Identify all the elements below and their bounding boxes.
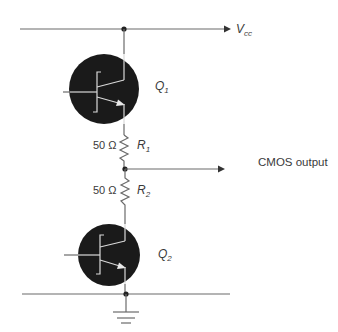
resistor-r1 (120, 135, 128, 169)
q2-label: Q2 (158, 247, 172, 263)
r1-value: 50 Ω (93, 139, 117, 151)
transistor-q2 (64, 224, 140, 294)
transistor-q1-body (69, 54, 139, 124)
r2-label: R2 (137, 183, 151, 199)
q1-label: Q1 (155, 79, 169, 95)
resistor-r2 (121, 169, 129, 224)
ground-icon (113, 312, 139, 323)
circuit-diagram: Vcc Q1 50 Ω R1 CMOS output 50 Ω R2 (0, 0, 338, 332)
vcc-label: Vcc (236, 22, 252, 38)
r2-value: 50 Ω (93, 184, 117, 196)
transistor-q1 (63, 29, 139, 135)
vcc-rail (20, 26, 231, 33)
ground-rail (22, 291, 230, 312)
r1-label: R1 (137, 138, 150, 154)
vcc-arrow-icon (224, 26, 231, 33)
cmos-output-label: CMOS output (258, 156, 328, 168)
output-arrow-icon (218, 166, 225, 173)
output-line (122, 166, 225, 173)
